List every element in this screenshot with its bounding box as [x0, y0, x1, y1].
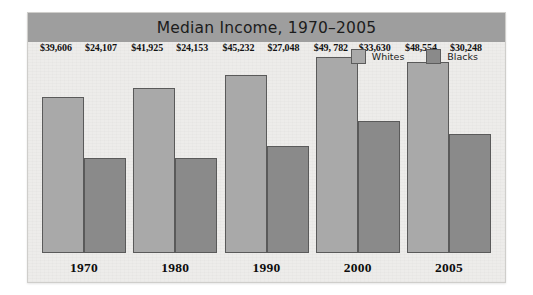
- bar-group: $48,554 $30,248 2005: [407, 42, 491, 282]
- bar-pair: $49, 782 $33,630: [316, 56, 400, 253]
- x-axis-tick-label: 2000: [316, 260, 400, 276]
- bar-wrap-whites: $39,606: [42, 56, 84, 253]
- bar-wrap-whites: $48,554: [407, 56, 449, 253]
- legend-item-blacks: Blacks: [426, 49, 478, 64]
- bar-whites[interactable]: [133, 88, 175, 253]
- bar-wrap-whites: $49, 782: [316, 56, 358, 253]
- bar-pair: $39,606 $24,107: [42, 56, 126, 253]
- bar-whites[interactable]: [225, 75, 267, 253]
- plot-area: $39,606 $24,107 1970 $41,925: [28, 42, 505, 282]
- legend-label-whites: Whites: [372, 51, 405, 62]
- bar-blacks[interactable]: [358, 121, 400, 254]
- bar-value-label: $49, 782: [314, 42, 348, 53]
- bar-whites[interactable]: [316, 57, 358, 253]
- bar-value-label: $39,606: [40, 42, 72, 53]
- bar-blacks[interactable]: [175, 158, 217, 253]
- legend-item-whites: Whites: [351, 49, 405, 64]
- bar-value-label: $41,925: [131, 42, 163, 53]
- bar-groups: $39,606 $24,107 1970 $41,925: [42, 42, 491, 282]
- x-axis-tick-label: 1970: [42, 260, 126, 276]
- bar-value-label: $24,107: [85, 42, 117, 53]
- bar-wrap-blacks: $24,107: [84, 56, 126, 253]
- bar-wrap-whites: $45,232: [225, 56, 267, 253]
- bar-value-label: $24,153: [176, 42, 208, 53]
- bar-wrap-blacks: $27,048: [267, 56, 309, 253]
- chart-panel: Median Income, 1970–2005 Whites Blacks $…: [27, 12, 506, 283]
- legend-label-blacks: Blacks: [447, 51, 478, 62]
- bar-whites[interactable]: [42, 97, 84, 253]
- chart-title-bar: Median Income, 1970–2005: [28, 13, 505, 42]
- chart-legend: Whites Blacks: [351, 49, 478, 64]
- bar-group: $41,925 $24,153 1980: [133, 42, 217, 282]
- bar-pair: $48,554 $30,248: [407, 56, 491, 253]
- bar-wrap-blacks: $33,630: [358, 56, 400, 253]
- x-axis-tick-label: 2005: [407, 260, 491, 276]
- bar-pair: $41,925 $24,153: [133, 56, 217, 253]
- bar-wrap-blacks: $30,248: [449, 56, 491, 253]
- chart-title: Median Income, 1970–2005: [157, 19, 377, 37]
- bar-group: $45,232 $27,048 1990: [225, 42, 309, 282]
- x-axis-tick-label: 1990: [225, 260, 309, 276]
- bar-group: $49, 782 $33,630 2000: [316, 42, 400, 282]
- bar-blacks[interactable]: [267, 146, 309, 253]
- legend-swatch-whites-icon: [351, 49, 366, 64]
- bar-value-label: $45,232: [223, 42, 255, 53]
- legend-swatch-blacks-icon: [426, 49, 441, 64]
- bar-wrap-whites: $41,925: [133, 56, 175, 253]
- bar-value-label: $27,048: [268, 42, 300, 53]
- x-axis-tick-label: 1980: [133, 260, 217, 276]
- bar-whites[interactable]: [407, 62, 449, 253]
- bar-blacks[interactable]: [84, 158, 126, 253]
- bar-group: $39,606 $24,107 1970: [42, 42, 126, 282]
- bar-wrap-blacks: $24,153: [175, 56, 217, 253]
- bar-pair: $45,232 $27,048: [225, 56, 309, 253]
- bar-blacks[interactable]: [449, 134, 491, 253]
